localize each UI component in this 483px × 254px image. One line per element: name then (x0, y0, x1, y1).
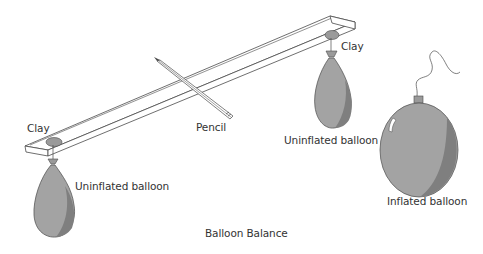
inflated-balloon (380, 51, 460, 197)
left-clay (46, 138, 62, 147)
label-clay-right: Clay (341, 41, 364, 52)
diagram-title: Balloon Balance (205, 228, 288, 239)
label-uninflated-balloon-right: Uninflated balloon (284, 135, 378, 146)
balloon-balance-diagram: Clay Clay Pencil Uninflated balloon Unin… (0, 0, 483, 254)
label-uninflated-balloon-left: Uninflated balloon (75, 181, 169, 192)
label-pencil: Pencil (196, 122, 226, 133)
diagram-drawing (0, 0, 483, 254)
left-uninflated-balloon (34, 159, 75, 237)
right-clay (325, 31, 339, 40)
label-clay-left: Clay (27, 123, 50, 134)
label-inflated-balloon: Inflated balloon (387, 196, 467, 207)
right-uninflated-balloon (315, 51, 352, 128)
